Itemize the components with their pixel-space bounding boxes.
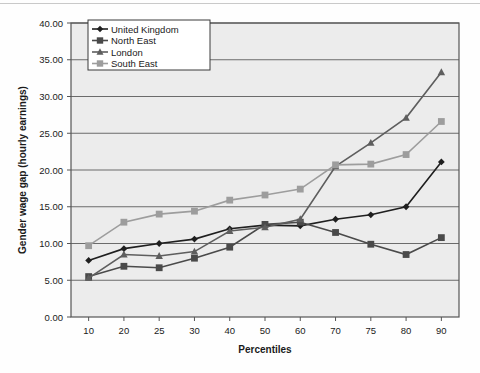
y-tick-label-30.00: 30.00 bbox=[39, 91, 63, 102]
data-point-30 bbox=[191, 255, 198, 262]
data-point-70 bbox=[332, 229, 339, 236]
chart-figure: 0.005.0010.0015.0020.0025.0030.0035.0040… bbox=[0, 0, 480, 373]
y-axis-title: Gender wage gap (hourly earnings) bbox=[17, 86, 28, 254]
y-tick-label-20.00: 20.00 bbox=[39, 165, 63, 176]
x-tick-label-30: 30 bbox=[189, 325, 200, 336]
legend-label: United Kingdom bbox=[111, 24, 179, 35]
data-point-75 bbox=[367, 241, 374, 248]
legend-marker-square bbox=[97, 37, 103, 43]
y-tick-label-40.00: 40.00 bbox=[39, 18, 63, 29]
data-point-25 bbox=[156, 211, 163, 218]
data-point-50 bbox=[262, 192, 269, 199]
y-tick-label-10.00: 10.00 bbox=[39, 238, 63, 249]
gender-wage-gap-line-chart: 0.005.0010.0015.0020.0025.0030.0035.0040… bbox=[0, 0, 480, 373]
data-point-10 bbox=[85, 242, 92, 249]
data-point-30 bbox=[191, 208, 198, 215]
y-tick-label-25.00: 25.00 bbox=[39, 128, 63, 139]
x-tick-label-10: 10 bbox=[83, 325, 94, 336]
data-point-80 bbox=[403, 251, 410, 258]
chart-legend: United KingdomNorth EastLondonSouth East bbox=[88, 20, 210, 70]
data-point-80 bbox=[403, 151, 410, 158]
x-tick-label-50: 50 bbox=[260, 325, 271, 336]
data-point-40 bbox=[226, 244, 233, 251]
y-tick-label-0.00: 0.00 bbox=[45, 312, 64, 323]
legend-label: London bbox=[111, 47, 143, 58]
legend-label: North East bbox=[111, 35, 156, 46]
x-tick-label-80: 80 bbox=[401, 325, 412, 336]
y-tick-label-5.00: 5.00 bbox=[45, 275, 64, 286]
y-tick-label-35.00: 35.00 bbox=[39, 54, 63, 65]
data-point-75 bbox=[367, 161, 374, 168]
y-tick-label-15.00: 15.00 bbox=[39, 201, 63, 212]
legend-label: South East bbox=[111, 58, 158, 69]
data-point-90 bbox=[438, 118, 445, 125]
x-tick-label-40: 40 bbox=[224, 325, 235, 336]
data-point-70 bbox=[332, 161, 339, 168]
data-point-20 bbox=[121, 219, 128, 226]
data-point-90 bbox=[438, 234, 445, 241]
data-point-25 bbox=[156, 264, 163, 271]
x-tick-label-75: 75 bbox=[366, 325, 377, 336]
data-point-20 bbox=[121, 263, 128, 270]
data-point-60 bbox=[297, 186, 304, 193]
x-tick-label-70: 70 bbox=[330, 325, 341, 336]
legend-marker-square bbox=[97, 60, 103, 66]
x-tick-label-60: 60 bbox=[295, 325, 306, 336]
x-tick-label-90: 90 bbox=[436, 325, 447, 336]
data-point-40 bbox=[226, 197, 233, 204]
x-tick-label-20: 20 bbox=[119, 325, 130, 336]
x-axis-title: Percentiles bbox=[238, 344, 292, 355]
x-tick-label-25: 25 bbox=[154, 325, 165, 336]
